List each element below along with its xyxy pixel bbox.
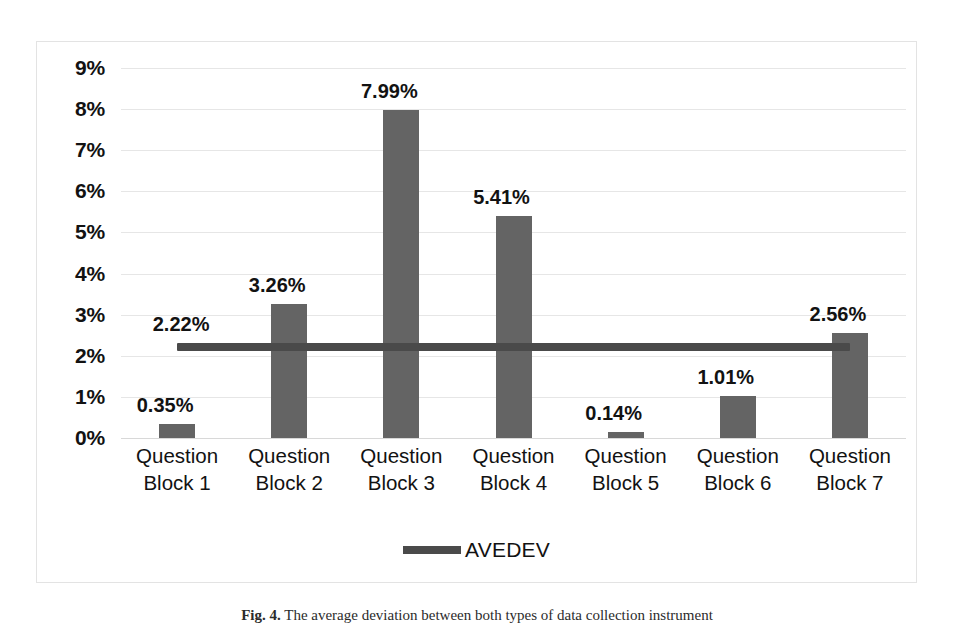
x-axis-tick-line: Question <box>345 442 457 469</box>
x-axis-tick-label: QuestionBlock 1 <box>121 442 233 496</box>
x-axis-tick-line: Question <box>121 442 233 469</box>
x-axis-tick-line: Block 5 <box>570 469 682 496</box>
x-axis-tick-line: Question <box>233 442 345 469</box>
gridline <box>121 68 906 69</box>
x-axis-tick-label: QuestionBlock 2 <box>233 442 345 496</box>
y-axis-tick-label: 3% <box>75 303 105 327</box>
avedev-legend-line-icon <box>403 546 461 554</box>
figure-caption-text: The average deviation between both types… <box>284 607 713 623</box>
y-axis-tick-label: 4% <box>75 262 105 286</box>
y-axis-tick-label: 1% <box>75 385 105 409</box>
chart-legend: AVEDEV <box>37 538 916 562</box>
bar <box>496 216 532 438</box>
bar <box>720 396 756 438</box>
x-axis-tick-line: Block 3 <box>345 469 457 496</box>
gridline <box>121 438 906 439</box>
x-axis-tick-line: Block 4 <box>458 469 570 496</box>
chart-container: 9%8%7%6%5%4%3%2%1%0% 0.35%3.26%7.99%5.41… <box>36 41 917 583</box>
avedev-series-line <box>177 343 850 351</box>
bar-value-label: 0.14% <box>585 402 642 425</box>
figure-caption-label: Fig. 4. <box>241 607 281 623</box>
x-axis-tick-line: Block 1 <box>121 469 233 496</box>
x-axis-tick-label: QuestionBlock 5 <box>570 442 682 496</box>
legend-item-label: AVEDEV <box>465 538 550 562</box>
x-axis-tick-line: Question <box>682 442 794 469</box>
y-axis-tick-label: 7% <box>75 138 105 162</box>
x-axis: QuestionBlock 1QuestionBlock 2QuestionBl… <box>121 442 906 528</box>
y-axis-tick-label: 0% <box>75 426 105 450</box>
bar-value-label: 2.56% <box>810 303 867 326</box>
x-axis-tick-line: Question <box>570 442 682 469</box>
bar-value-label: 1.01% <box>697 366 754 389</box>
gridline <box>121 109 906 110</box>
bar <box>271 304 307 438</box>
y-axis-tick-label: 2% <box>75 344 105 368</box>
x-axis-tick-label: QuestionBlock 3 <box>345 442 457 496</box>
bar-value-label: 3.26% <box>249 274 306 297</box>
y-axis-tick-label: 6% <box>75 179 105 203</box>
y-axis: 9%8%7%6%5%4%3%2%1%0% <box>37 68 117 438</box>
figure-caption: Fig. 4. The average deviation between bo… <box>0 607 954 624</box>
gridline <box>121 150 906 151</box>
bar-value-label: 5.41% <box>473 186 530 209</box>
x-axis-tick-label: QuestionBlock 6 <box>682 442 794 496</box>
bar-value-label: 0.35% <box>137 394 194 417</box>
bar <box>608 432 644 438</box>
x-axis-tick-label: QuestionBlock 4 <box>458 442 570 496</box>
y-axis-tick-label: 5% <box>75 220 105 244</box>
x-axis-tick-line: Block 7 <box>794 469 906 496</box>
bar <box>159 424 195 438</box>
avedev-value-label: 2.22% <box>153 313 210 336</box>
x-axis-tick-line: Block 6 <box>682 469 794 496</box>
y-axis-tick-label: 8% <box>75 97 105 121</box>
x-axis-tick-line: Question <box>458 442 570 469</box>
x-axis-tick-label: QuestionBlock 7 <box>794 442 906 496</box>
x-axis-tick-line: Question <box>794 442 906 469</box>
bar <box>383 110 419 438</box>
x-axis-tick-line: Block 2 <box>233 469 345 496</box>
bar-value-label: 7.99% <box>361 80 418 103</box>
y-axis-tick-label: 9% <box>75 56 105 80</box>
plot-area: 0.35%3.26%7.99%5.41%0.14%1.01%2.56%2.22% <box>121 68 906 438</box>
